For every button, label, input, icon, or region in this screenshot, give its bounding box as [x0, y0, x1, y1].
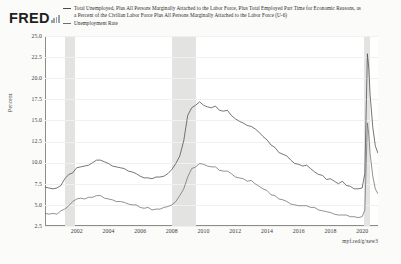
- series-lines: [45, 36, 378, 226]
- bar-chart-icon: [51, 15, 60, 23]
- x-tick-label: 2004: [102, 228, 114, 234]
- y-tick-label: 5.0: [18, 202, 42, 208]
- y-tick-label: 22.5: [18, 54, 42, 60]
- y-tick-label: 15.0: [18, 117, 42, 123]
- source-url: myf.red/g/xew3: [342, 238, 378, 244]
- y-axis-label: Percent: [7, 93, 13, 112]
- legend-entry: Unemployment Rate: [63, 20, 363, 27]
- series-line: [45, 54, 378, 189]
- fred-chart-figure: FRED Total Unemployed, Plus All Persons …: [0, 0, 401, 264]
- y-tick-label: 17.5: [18, 96, 42, 102]
- fred-logo: FRED: [9, 11, 50, 26]
- x-tick-label: 2008: [166, 228, 178, 234]
- x-tick-label: 2020: [356, 228, 368, 234]
- x-tick-label: 2016: [293, 228, 305, 234]
- legend-color-swatch: [63, 8, 71, 9]
- gridline: [45, 226, 378, 227]
- x-axis-ticks: 2002200420062008201020122014201620182020: [45, 228, 378, 240]
- legend-color-swatch: [63, 23, 71, 24]
- legend-label: Total Unemployed, Plus All Persons Margi…: [74, 5, 361, 18]
- y-axis-ticks: 25.022.520.017.515.012.510.07.55.02.5: [15, 36, 42, 226]
- y-tick-label: 7.5: [18, 181, 42, 187]
- x-tick-label: 2012: [229, 228, 241, 234]
- y-tick-label: 10.0: [18, 159, 42, 165]
- x-tick-label: 2006: [134, 228, 146, 234]
- y-tick-label: 2.5: [18, 223, 42, 229]
- x-tick-label: 2010: [198, 228, 210, 234]
- chart-header: FRED Total Unemployed, Plus All Persons …: [0, 0, 401, 38]
- y-tick-label: 25.0: [18, 33, 42, 39]
- legend-entry: Total Unemployed, Plus All Persons Margi…: [63, 5, 363, 19]
- y-tick-label: 12.5: [18, 138, 42, 144]
- x-tick-label: 2014: [261, 228, 273, 234]
- y-tick-label: 20.0: [18, 75, 42, 81]
- x-tick-label: 2018: [324, 228, 336, 234]
- series-line: [45, 123, 378, 218]
- x-tick-label: 2002: [71, 228, 83, 234]
- chart-legend: Total Unemployed, Plus All Persons Margi…: [63, 5, 363, 27]
- legend-label: Unemployment Rate: [74, 20, 118, 26]
- plot-area: [45, 36, 378, 226]
